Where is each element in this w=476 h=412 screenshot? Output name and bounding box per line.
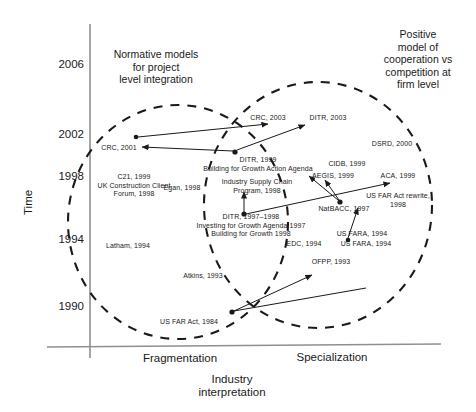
node-label-usfara1994-a: US FARA, 1994 bbox=[322, 230, 402, 239]
x-tick-fragmentation: Fragmentation bbox=[120, 352, 240, 365]
node-dot-natbacc bbox=[337, 199, 342, 204]
node-label-latham1994: Latham, 1994 bbox=[88, 242, 168, 251]
node-label-dsrd2000: DSRD, 2000 bbox=[352, 140, 432, 149]
node-label-ditr2003: DITR, 2003 bbox=[288, 114, 368, 123]
node-label-ofpp1993: OFPP, 1993 bbox=[296, 258, 366, 267]
node-label-ditr-1997-1998: DITR, 1997–1998 Investing for Growth Age… bbox=[176, 213, 326, 239]
node-dot-ditr1999 bbox=[232, 149, 237, 154]
arrow-usfar1984-branch bbox=[234, 288, 366, 311]
node-dot-usfar1984 bbox=[229, 309, 234, 314]
node-dot-crc2001 bbox=[134, 135, 139, 140]
arrow-crc2001-to-crc2003 bbox=[138, 124, 268, 137]
node-label-atkins1993: Atkins, 1993 bbox=[168, 272, 238, 281]
y-tick-1994: 1994 bbox=[36, 233, 84, 245]
arrow-ditr1999-to-ditr2003 bbox=[237, 125, 305, 150]
x-axis-line bbox=[47, 344, 441, 347]
arrow-ditr1999-to-crc2001 bbox=[142, 147, 233, 151]
node-label-crc2001: CRC, 2001 bbox=[84, 144, 154, 153]
node-label-usfara1994-b: US FARA, 1994 bbox=[326, 240, 406, 249]
node-label-cidb1999: CIDB, 1999 bbox=[312, 160, 382, 169]
y-tick-1990: 1990 bbox=[36, 300, 84, 312]
y-axis-label: Time bbox=[22, 190, 34, 215]
x-tick-specialization: Specialization bbox=[272, 351, 392, 364]
arrow-usfar1984-to-ofpp bbox=[234, 275, 312, 311]
node-label-aca1999: ACA, 1999 bbox=[366, 172, 430, 181]
y-tick-2002: 2002 bbox=[36, 128, 84, 140]
node-label-iscp1998: Industry Supply Chain Program, 1998 bbox=[202, 178, 312, 195]
x-axis-label-line1: Industry bbox=[172, 373, 292, 386]
region-title-positive-model: Positive model of cooperation vs competi… bbox=[368, 28, 468, 91]
region-title-normative-models: Normative models for project level integ… bbox=[88, 48, 224, 86]
figure-canvas: Time 2006 2002 1998 1994 1990 Fragmentat… bbox=[0, 0, 476, 412]
node-label-usfar-act-1984: US FAR Act, 1984 bbox=[144, 318, 234, 327]
x-axis-label-line2: interpretation bbox=[172, 386, 292, 399]
y-tick-2006: 2006 bbox=[36, 58, 84, 70]
